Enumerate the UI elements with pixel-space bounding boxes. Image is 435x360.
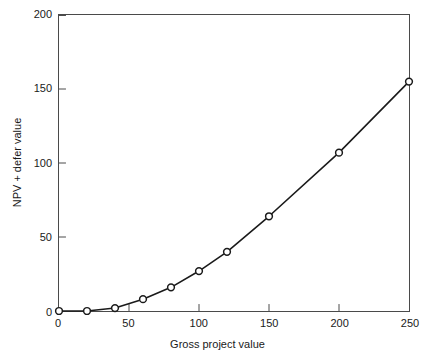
y-tick-label: 100: [34, 158, 52, 169]
data-point: [196, 268, 203, 275]
y-axis-ticks: [59, 15, 66, 237]
y-tick-label: 50: [40, 232, 52, 243]
x-axis-title: Gross project value: [0, 338, 435, 351]
series-svg: [59, 15, 409, 311]
chart-figure: 200 150 100 50 0 0 50 100 150 200 250 Gr…: [0, 0, 435, 360]
data-point: [56, 308, 63, 315]
y-tick-label: 150: [34, 83, 52, 94]
x-tick-label: 100: [190, 318, 208, 329]
x-axis-ticks: [129, 304, 339, 311]
data-point: [84, 308, 91, 315]
data-point: [336, 149, 343, 156]
data-point: [140, 296, 147, 303]
data-point: [168, 284, 175, 291]
data-line: [59, 82, 409, 311]
x-tick-label: 50: [122, 318, 134, 329]
plot-area: [58, 14, 410, 312]
data-point: [112, 305, 119, 312]
y-tick-label: 0: [46, 307, 52, 318]
x-tick-label: 250: [401, 318, 419, 329]
x-axis-tick-labels: 0 50 100 150 200 250: [0, 318, 435, 334]
data-point: [406, 78, 413, 85]
y-tick-label: 200: [34, 9, 52, 20]
y-axis-title: NPV + defer value: [11, 83, 24, 243]
x-tick-label: 200: [330, 318, 348, 329]
data-markers: [56, 78, 413, 314]
x-tick-label: 150: [260, 318, 278, 329]
data-point: [266, 213, 273, 220]
x-tick-label: 0: [55, 318, 61, 329]
data-point: [224, 248, 231, 255]
y-axis-tick-labels: 200 150 100 50 0: [0, 0, 52, 360]
